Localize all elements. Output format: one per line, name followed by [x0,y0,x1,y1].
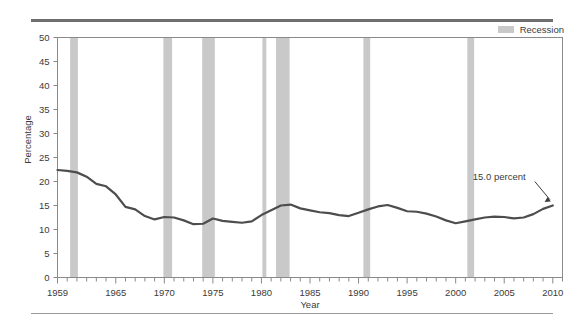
recession-1969 [163,38,172,278]
recession-1981 [276,38,290,278]
y-tick-label: 35 [39,104,50,115]
y-tick-label: 50 [39,32,50,43]
plot-area: 05101520253035404550 1959196519701975198… [0,0,584,331]
x-tick-label: 1965 [105,287,126,298]
x-tick-label: 1985 [299,287,320,298]
y-tick-label: 10 [39,224,50,235]
y-tick-label: 20 [39,176,50,187]
y-axis-ticks-group: 05101520253035404550 [39,32,58,283]
bottom-divider-rule [31,313,553,314]
annotation-label: 15.0 percent [473,171,526,182]
annotation-arrow-shaft [535,182,550,200]
annotation-arrow-head [545,197,551,202]
x-tick-label: 2010 [542,287,563,298]
y-tick-label: 30 [39,128,50,139]
recession-1990 [363,38,370,278]
y-tick-label: 25 [39,152,50,163]
x-tick-label: 1990 [348,287,369,298]
x-tick-label: 2005 [494,287,515,298]
recession-1973 [202,38,215,278]
poverty-rate-chart-figure: Recession Percentage Year 05101520253035… [0,0,584,331]
x-tick-label: 1980 [251,287,272,298]
x-axis-ticks-group: 1959196519701975198019851990199520002005… [47,278,563,298]
x-tick-label: 1959 [47,287,68,298]
recession-2001 [467,38,474,278]
end-value-annotation: 15.0 percent [473,171,551,203]
y-tick-label: 45 [39,56,50,67]
recession-bands-group [70,38,474,278]
y-tick-label: 15 [39,200,50,211]
y-tick-label: 0 [44,272,49,283]
x-tick-label: 1975 [202,287,223,298]
recession-1980 [262,38,266,278]
y-tick-label: 40 [39,80,50,91]
x-tick-label: 1970 [154,287,175,298]
x-tick-label: 1995 [397,287,418,298]
x-tick-label: 2000 [445,287,466,298]
y-tick-label: 5 [44,248,49,259]
recession-1960 [70,38,78,278]
plot-frame [58,38,563,278]
